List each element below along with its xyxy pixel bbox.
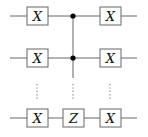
gate-x-right-1: X — [100, 7, 121, 25]
gate-x-right-2: X — [100, 49, 121, 67]
gate-z-target: Z — [63, 109, 84, 127]
svg-text:X: X — [32, 9, 43, 24]
gate-x-right-n: X — [100, 109, 121, 127]
svg-text:X: X — [32, 51, 43, 66]
control-dot-2 — [70, 55, 75, 60]
control-dot-1 — [70, 13, 75, 18]
gate-x-left-2: X — [27, 49, 48, 67]
svg-text:X: X — [105, 111, 116, 126]
svg-text:X: X — [105, 51, 116, 66]
svg-text:X: X — [32, 111, 43, 126]
gate-x-left-1: X — [27, 7, 48, 25]
gate-x-left-n: X — [27, 109, 48, 127]
svg-text:Z: Z — [68, 111, 79, 126]
svg-text:X: X — [105, 9, 116, 24]
quantum-circuit: X X X Z X X X — [0, 0, 148, 137]
